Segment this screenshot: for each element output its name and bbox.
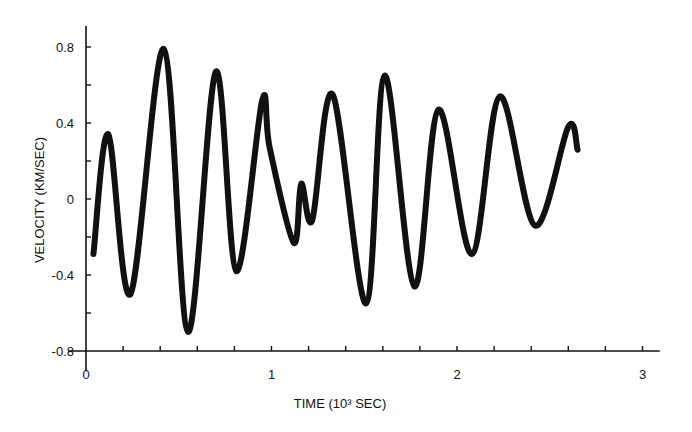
y-tick-label: 0.4 bbox=[56, 116, 74, 131]
y-tick-label: 0.8 bbox=[56, 40, 74, 55]
velocity-line bbox=[93, 49, 577, 332]
x-tick-label: 1 bbox=[268, 367, 275, 382]
y-axis-title: VELOCITY (KM/SEC) bbox=[32, 137, 47, 263]
y-axis-ticks: 0.80.40-0.4-0.8 bbox=[52, 40, 91, 359]
y-tick-label: 0 bbox=[67, 192, 74, 207]
x-tick-label: 0 bbox=[82, 367, 89, 382]
y-tick-label: -0.8 bbox=[52, 344, 74, 359]
x-axis-title: TIME (10³ SEC) bbox=[294, 396, 386, 411]
x-tick-label: 3 bbox=[639, 367, 646, 382]
velocity-time-chart: 0123 0.80.40-0.4-0.8 TIME (10³ SEC) VELO… bbox=[0, 0, 692, 432]
y-tick-label: -0.4 bbox=[52, 268, 74, 283]
x-tick-label: 2 bbox=[453, 367, 460, 382]
